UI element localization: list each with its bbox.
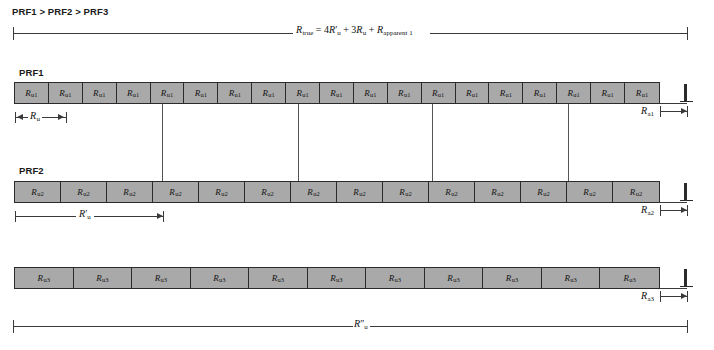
prf1-pulse-cell-label: Ru1 [127,88,139,98]
prf3-pulse-cell: Ru3 [74,268,133,288]
prf3-pulse-cell: Ru3 [249,268,308,288]
eq-term2-sub: u [363,29,367,37]
cell-symbol: R [466,88,472,98]
prf1-pulse-cell: Ru1 [320,83,354,103]
cell-subscript: u1 [370,91,377,98]
prf3-pulse-cell-label: Ru3 [213,273,225,283]
prf2-pulse-cell: Ru2 [567,182,613,202]
ra3-label: Ra3 [641,290,654,303]
prf1-pulse-train: Ru1Ru1Ru1Ru1Ru1Ru1Ru1Ru1Ru1Ru1Ru1Ru1Ru1R… [14,82,660,104]
cell-subscript: u1 [133,91,140,98]
prf3-pulse-cell: Ru3 [308,268,367,288]
prf1-pulse-cell-label: Ru1 [636,88,648,98]
cell-subscript: u3 [43,276,50,283]
ra2-label: Ra2 [641,204,654,217]
cell-subscript: u2 [37,190,44,197]
prf1-pulse-cell: Ru1 [49,83,83,103]
cell-subscript: u1 [201,91,208,98]
cell-subscript: u1 [99,91,106,98]
prf2-pulse-cell: Ru2 [291,182,337,202]
prf1-pulse-cell-label: Ru1 [25,88,37,98]
prf1-pulse-cell-label: Ru1 [296,88,308,98]
cell-subscript: u2 [359,190,366,197]
cell-subscript: u1 [268,91,275,98]
prf2-row-title: PRF2 [19,165,44,176]
prf1-pulse-cell-label: Ru1 [263,88,275,98]
cell-symbol: R [500,88,506,98]
cell-symbol: R [59,88,65,98]
cell-subscript: u2 [405,190,412,197]
prf2-pulse-cell-label: Ru2 [445,187,457,197]
prf1-pulse-cell: Ru1 [252,83,286,103]
cell-subscript: u2 [175,190,182,197]
prf1-pulse-cell: Ru1 [523,83,557,103]
cell-subscript: u1 [31,91,38,98]
prf3-pulse-cell-label: Ru3 [38,273,50,283]
eq-plus-1: + [343,24,349,35]
ra2-sub: a2 [647,209,654,217]
prf3-spike-base [680,286,693,287]
ra1-cap-right [687,106,688,117]
prf3-pulse-train: Ru3Ru3Ru3Ru3Ru3Ru3Ru3Ru3Ru3Ru3Ru3 [14,267,660,289]
prf1-pulse-cell: Ru1 [151,83,185,103]
cell-subscript: u1 [607,91,614,98]
cell-symbol: R [398,88,404,98]
prf1-pulse-cell-label: Ru1 [93,88,105,98]
prf2-pulse-cell: Ru2 [107,182,153,202]
prf1-pulse-cell: Ru1 [354,83,388,103]
prf2-pulse-cell-label: Ru2 [491,187,503,197]
cell-symbol: R [447,273,453,283]
prf3-pulse-cell-label: Ru3 [272,273,284,283]
cell-subscript: u1 [234,91,241,98]
cell-subscript: u3 [570,276,577,283]
prf3-pulse-cell-label: Ru3 [564,273,576,283]
prf2-pulse-cell-label: Ru2 [31,187,43,197]
ru-label: Ru [28,110,42,123]
ru-arrow-right [58,114,64,120]
connector-line-3 [432,104,433,181]
prf1-pulse-cell-label: Ru1 [500,88,512,98]
cell-subscript: u1 [336,91,343,98]
cell-subscript: u1 [404,91,411,98]
prf1-pulse-cell-label: Ru1 [330,88,342,98]
cell-subscript: u1 [539,91,546,98]
prf3-spike [684,269,687,286]
connector-line-4 [568,104,569,181]
prf1-pulse-cell-label: Ru1 [195,88,207,98]
prf1-pulse-cell-label: Ru1 [229,88,241,98]
cell-subscript: u2 [451,190,458,197]
ru-prime-sub: u [87,213,91,221]
cell-symbol: R [330,273,336,283]
cell-subscript: u3 [629,276,636,283]
ra2-cap-right [687,205,688,216]
true-range-equation-label: Rtrue = 4R′u + 3Ru + Rapparent 1 [296,24,413,37]
prf1-pulse-cell-label: Ru1 [161,88,173,98]
cell-symbol: R [127,88,133,98]
cell-subscript: u2 [83,190,90,197]
prf2-pulse-train: Ru2Ru2Ru2Ru2Ru2Ru2Ru2Ru2Ru2Ru2Ru2Ru2Ru2R… [14,181,660,203]
cell-subscript: u1 [302,91,309,98]
prf3-pulse-cell: Ru3 [600,268,659,288]
cell-subscript: u2 [636,190,643,197]
prf3-pulse-cell: Ru3 [366,268,425,288]
prf2-pulse-cell: Ru2 [61,182,107,202]
prf2-pulse-cell-label: Ru2 [583,187,595,197]
prf1-pulse-cell: Ru1 [286,83,320,103]
prf2-pulse-cell-label: Ru2 [261,187,273,197]
cell-subscript: u3 [219,276,226,283]
cell-subscript: u1 [506,91,513,98]
prf2-pulse-cell: Ru2 [475,182,521,202]
cell-subscript: u2 [543,190,550,197]
connector-line-2 [298,104,299,181]
cell-subscript: u2 [589,190,596,197]
dim-cap-right [687,27,688,40]
cell-subscript: u1 [642,91,649,98]
prf1-pulse-cell: Ru1 [422,83,456,103]
prf1-pulse-cell: Ru1 [489,83,523,103]
cell-subscript: u3 [512,276,519,283]
ru-dprime-line-left [13,326,353,327]
cell-symbol: R [96,273,102,283]
prf2-pulse-cell: Ru2 [337,182,383,202]
ru-arrow-left [17,114,23,120]
ra1-label: Ra1 [641,105,654,118]
